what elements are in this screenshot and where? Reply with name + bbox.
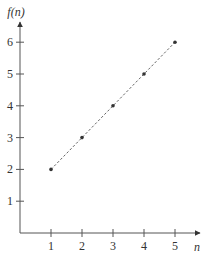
data-point xyxy=(80,136,84,140)
axes xyxy=(20,22,200,233)
y-tick-group: 123456 xyxy=(7,35,24,208)
x-axis-label: n xyxy=(194,240,200,254)
data-series xyxy=(49,40,177,171)
y-tick-label: 5 xyxy=(7,67,13,81)
x-tick-label: 3 xyxy=(110,239,116,253)
x-tick-label: 4 xyxy=(141,239,147,253)
function-plot: 12345 123456 n f(n) xyxy=(0,0,205,255)
x-tick-label: 1 xyxy=(48,239,54,253)
y-tick-label: 4 xyxy=(7,99,13,113)
y-tick-label: 1 xyxy=(7,194,13,208)
y-tick-label: 6 xyxy=(7,35,13,49)
data-point xyxy=(111,104,115,108)
data-point xyxy=(49,168,53,172)
y-axis-label: f(n) xyxy=(7,5,24,19)
x-tick-label: 5 xyxy=(172,239,178,253)
x-tick-label: 2 xyxy=(79,239,85,253)
plot-canvas: 12345 123456 n f(n) xyxy=(0,0,205,255)
y-tick-label: 2 xyxy=(7,162,13,176)
data-point xyxy=(173,40,177,44)
data-point xyxy=(142,72,146,76)
y-tick-label: 3 xyxy=(7,131,13,145)
